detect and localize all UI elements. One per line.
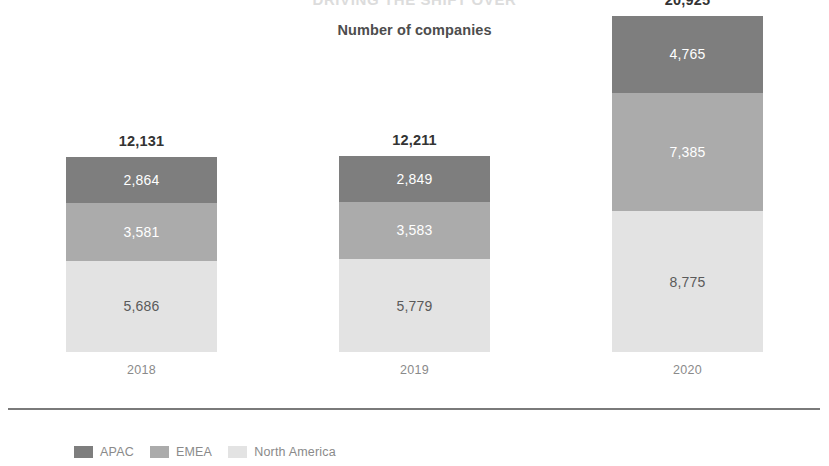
segment-value-label: 2,864 [123,173,159,187]
x-axis-category-label: 2020 [612,363,763,377]
legend-item-north-america[interactable]: North America [228,445,336,459]
x-axis-category-label: 2018 [66,363,217,377]
bar-segment-emea[interactable]: 3,583 [339,202,490,260]
bar-segment-north-america[interactable]: 8,775 [612,211,763,352]
stacked-bar-chart: DRIVING THE SHIFT OVER Number of compani… [0,0,829,466]
legend-label-north-america: North America [254,445,336,459]
bar-segment-apac[interactable]: 2,849 [339,156,490,202]
bar-segment-apac[interactable]: 4,765 [612,16,763,93]
plot-area: 2,8643,5815,68612,13120182,8493,5835,779… [0,0,829,409]
bar-segment-emea[interactable]: 7,385 [612,93,763,212]
legend-swatch-north-america [228,446,247,458]
segment-value-label: 3,581 [123,225,159,239]
x-axis-line [8,408,820,410]
chart-legend: APAC EMEA North America [74,445,352,459]
bar-segment-north-america[interactable]: 5,686 [66,261,217,352]
legend-item-emea[interactable]: EMEA [150,445,212,459]
bar-segment-north-america[interactable]: 5,779 [339,259,490,352]
legend-swatch-emea [150,446,169,458]
segment-value-label: 5,779 [396,299,432,313]
legend-swatch-apac [74,446,93,458]
bar-total-label: 12,211 [339,132,490,148]
bar-total-label: 20,925 [612,0,763,8]
legend-item-apac[interactable]: APAC [74,445,134,459]
segment-value-label: 7,385 [669,145,705,159]
bar-stack: 2,8493,5835,779 [339,156,490,352]
bar-stack: 4,7657,3858,775 [612,16,763,352]
legend-label-emea: EMEA [176,445,212,459]
bar-stack: 2,8643,5815,686 [66,157,217,352]
bar-total-label: 12,131 [66,133,217,149]
segment-value-label: 2,849 [396,172,432,186]
bar-segment-emea[interactable]: 3,581 [66,203,217,261]
legend-label-apac: APAC [100,445,134,459]
segment-value-label: 3,583 [396,223,432,237]
bar-segment-apac[interactable]: 2,864 [66,157,217,203]
x-axis-category-label: 2019 [339,363,490,377]
segment-value-label: 4,765 [669,47,705,61]
segment-value-label: 8,775 [669,275,705,289]
segment-value-label: 5,686 [123,299,159,313]
